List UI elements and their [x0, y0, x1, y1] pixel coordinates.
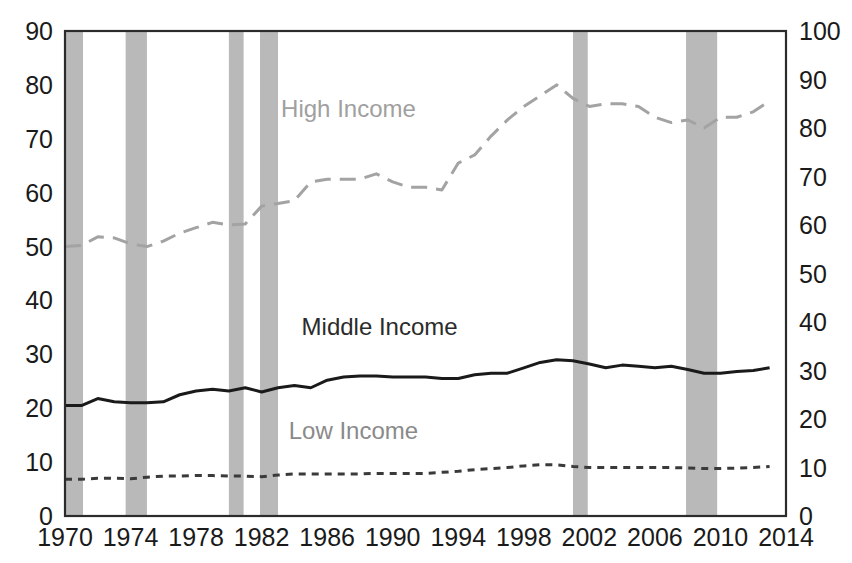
x-axis-tick-1974: 1974 [103, 523, 159, 551]
x-axis-tick-2014: 2014 [758, 523, 814, 551]
left-axis-tick-30: 30 [25, 340, 53, 368]
right-axis-tick-100: 100 [799, 17, 841, 45]
left-axis-tick-80: 80 [25, 71, 53, 99]
recession-band [65, 32, 83, 515]
left-axis-tick-60: 60 [25, 179, 53, 207]
x-axis-tick-2002: 2002 [562, 523, 618, 551]
left-axis-tick-70: 70 [25, 125, 53, 153]
series-label-low-income: Low Income [289, 417, 418, 444]
right-axis-tick-40: 40 [799, 308, 827, 336]
x-axis-tick-2010: 2010 [693, 523, 749, 551]
recession-band [573, 32, 588, 515]
right-axis-tick-70: 70 [799, 163, 827, 191]
income-groups-line-chart: 0102030405060708090 01020304050607080901… [0, 0, 852, 563]
left-axis-tick-20: 20 [25, 394, 53, 422]
right-axis-tick-80: 80 [799, 114, 827, 142]
left-axis-tick-10: 10 [25, 448, 53, 476]
recession-band [260, 32, 278, 515]
left-axis-tick-40: 40 [25, 286, 53, 314]
x-axis-tick-1990: 1990 [365, 523, 421, 551]
x-axis-tick-1978: 1978 [168, 523, 224, 551]
right-axis-tick-90: 90 [799, 66, 827, 94]
series-label-high-income: High Income [281, 95, 416, 122]
x-axis-tick-1986: 1986 [299, 523, 355, 551]
right-axis-tick-30: 30 [799, 357, 827, 385]
left-axis-tick-50: 50 [25, 233, 53, 261]
x-axis-tick-1970: 1970 [37, 523, 93, 551]
series-label-middle-income: Middle Income [302, 313, 458, 340]
x-axis-tick-2006: 2006 [627, 523, 683, 551]
right-axis-tick-10: 10 [799, 454, 827, 482]
left-axis-tick-90: 90 [25, 17, 53, 45]
right-axis-tick-50: 50 [799, 260, 827, 288]
recession-band [686, 32, 717, 515]
recession-band [229, 32, 244, 515]
x-axis-tick-1982: 1982 [234, 523, 290, 551]
right-axis-tick-20: 20 [799, 405, 827, 433]
chart-container: 0102030405060708090 01020304050607080901… [0, 0, 852, 563]
x-axis-tick-1994: 1994 [430, 523, 486, 551]
x-axis-tick-1998: 1998 [496, 523, 552, 551]
recession-band [126, 32, 147, 515]
right-axis-tick-60: 60 [799, 211, 827, 239]
